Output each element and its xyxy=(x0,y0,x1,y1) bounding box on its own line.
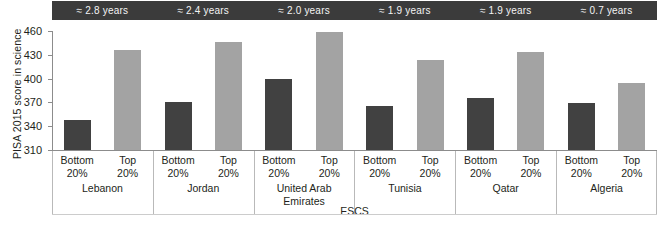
quintile-bottom-line1: Bottom xyxy=(565,154,598,166)
quintile-top-line1: Top xyxy=(321,154,338,166)
y-axis-title: PISA 2015 score in science xyxy=(0,20,16,160)
country-label: United ArabEmirates xyxy=(254,182,355,207)
quintile-top-line1: Top xyxy=(522,154,539,166)
country-label-line1: Tunisia xyxy=(388,182,421,194)
x-axis-title: ESCS xyxy=(52,205,657,217)
bar-bottom-quintile xyxy=(265,79,292,150)
quintile-bottom-line2: 20% xyxy=(470,167,491,179)
country-label-line1: Qatar xyxy=(493,182,519,194)
country-label: Tunisia xyxy=(354,182,455,195)
y-tick-label: 310 xyxy=(8,144,42,156)
quintile-label-top: Top20% xyxy=(609,154,655,179)
quintile-label-top: Top20% xyxy=(105,154,151,179)
quintile-label-top: Top20% xyxy=(508,154,554,179)
quintile-label-top: Top20% xyxy=(407,154,453,179)
country-label-line1: United Arab xyxy=(277,182,332,194)
quintile-bottom-line1: Bottom xyxy=(61,154,94,166)
quintile-label-bottom: Bottom20% xyxy=(458,154,504,179)
quintile-top-line2: 20% xyxy=(218,167,239,179)
quintile-label-pair: Bottom20%Top20% xyxy=(556,151,657,179)
quintile-top-line1: Top xyxy=(422,154,439,166)
bar-top-quintile xyxy=(114,50,141,150)
bar-top-quintile xyxy=(215,42,242,150)
quintile-label-top: Top20% xyxy=(205,154,251,179)
schooling-gap-label: ≈ 0.7 years xyxy=(556,1,657,20)
quintile-label-top: Top20% xyxy=(306,154,352,179)
bar-bottom-quintile xyxy=(165,102,192,150)
quintile-label-pair: Bottom20%Top20% xyxy=(455,151,556,179)
bar-top-quintile xyxy=(316,32,343,150)
bar-group xyxy=(556,31,657,150)
country-label: Algeria xyxy=(556,182,657,195)
bar-bottom-quintile xyxy=(366,106,393,150)
country-label-line1: Algeria xyxy=(590,182,623,194)
bar-group xyxy=(153,31,254,150)
quintile-top-line1: Top xyxy=(623,154,640,166)
bar-top-quintile xyxy=(618,83,645,150)
country-label: Jordan xyxy=(153,182,254,195)
quintile-top-line2: 20% xyxy=(117,167,138,179)
schooling-gap-banner: ≈ 2.8 years≈ 2.4 years≈ 2.0 years≈ 1.9 y… xyxy=(52,1,657,20)
bar-top-quintile xyxy=(417,60,444,150)
bar-group xyxy=(52,31,153,150)
pisa-escs-bar-chart: PISA 2015 score in science ≈ 2.8 years≈ … xyxy=(0,0,657,236)
quintile-label-pair: Bottom20%Top20% xyxy=(354,151,455,179)
quintile-top-line2: 20% xyxy=(520,167,541,179)
bar-groups xyxy=(52,31,657,150)
quintile-bottom-line1: Bottom xyxy=(464,154,497,166)
quintile-bottom-line1: Bottom xyxy=(262,154,295,166)
schooling-gap-label: ≈ 1.9 years xyxy=(354,1,455,20)
quintile-bottom-line2: 20% xyxy=(571,167,592,179)
quintile-label-bottom: Bottom20% xyxy=(558,154,604,179)
quintile-label-pair: Bottom20%Top20% xyxy=(254,151,355,179)
country-label-line1: Jordan xyxy=(187,182,219,194)
quintile-label-bottom: Bottom20% xyxy=(54,154,100,179)
quintile-top-line2: 20% xyxy=(420,167,441,179)
bar-group xyxy=(455,31,556,150)
y-tick-label: 400 xyxy=(8,73,42,85)
quintile-label-bottom: Bottom20% xyxy=(256,154,302,179)
quintile-bottom-line2: 20% xyxy=(67,167,88,179)
quintile-bottom-line2: 20% xyxy=(168,167,189,179)
quintile-top-line1: Top xyxy=(119,154,136,166)
quintile-top-line2: 20% xyxy=(621,167,642,179)
y-tick-label: 460 xyxy=(8,25,42,37)
country-label: Lebanon xyxy=(52,182,153,195)
y-tick-label: 340 xyxy=(8,120,42,132)
quintile-bottom-line2: 20% xyxy=(369,167,390,179)
bar-bottom-quintile xyxy=(64,120,91,150)
y-tick-label: 370 xyxy=(8,96,42,108)
country-label: Qatar xyxy=(455,182,556,195)
quintile-top-line2: 20% xyxy=(319,167,340,179)
quintile-label-pair: Bottom20%Top20% xyxy=(52,151,153,179)
quintile-top-line1: Top xyxy=(220,154,237,166)
schooling-gap-label: ≈ 2.0 years xyxy=(254,1,355,20)
quintile-label-bottom: Bottom20% xyxy=(357,154,403,179)
bottom-rule xyxy=(52,214,657,215)
bar-top-quintile xyxy=(517,52,544,150)
schooling-gap-label: ≈ 1.9 years xyxy=(455,1,556,20)
y-tick-label: 430 xyxy=(8,49,42,61)
schooling-gap-label: ≈ 2.4 years xyxy=(153,1,254,20)
quintile-bottom-line1: Bottom xyxy=(161,154,194,166)
bar-group xyxy=(254,31,355,150)
schooling-gap-label: ≈ 2.8 years xyxy=(52,1,153,20)
quintile-label-bottom: Bottom20% xyxy=(155,154,201,179)
bar-group xyxy=(354,31,455,150)
bar-bottom-quintile xyxy=(467,98,494,150)
country-label-line1: Lebanon xyxy=(82,182,123,194)
quintile-bottom-line1: Bottom xyxy=(363,154,396,166)
quintile-label-pair: Bottom20%Top20% xyxy=(153,151,254,179)
bar-bottom-quintile xyxy=(568,103,595,150)
quintile-bottom-line2: 20% xyxy=(268,167,289,179)
